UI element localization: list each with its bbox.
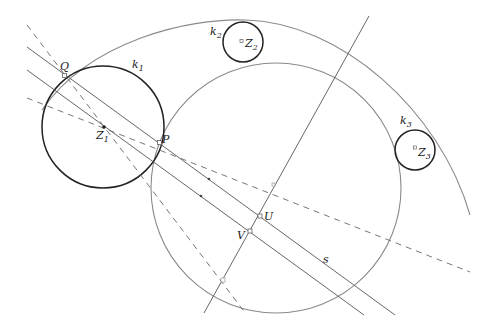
diagram-svg: Q P U V s k1 k2 k3 Z1 Z2 Z3 bbox=[0, 0, 492, 331]
label-P: P bbox=[161, 133, 170, 146]
tick-mark bbox=[208, 178, 211, 181]
label-Q: Q bbox=[60, 60, 69, 73]
point-U-marker bbox=[258, 214, 262, 218]
point-Q-marker bbox=[63, 74, 67, 78]
point-V-marker bbox=[248, 229, 252, 233]
label-U: U bbox=[264, 210, 274, 223]
label-V: V bbox=[237, 229, 246, 242]
label-k2: k2 bbox=[210, 25, 222, 40]
label-s: s bbox=[323, 253, 329, 266]
parallel-line-z1 bbox=[27, 70, 364, 315]
center-Z3-marker bbox=[414, 146, 417, 149]
center-Z2-marker bbox=[240, 40, 243, 43]
geometry-diagram: Q P U V s k1 k2 k3 Z1 Z2 Z3 bbox=[0, 0, 492, 331]
label-k3: k3 bbox=[400, 114, 412, 129]
line-uv bbox=[204, 16, 369, 313]
label-Z3: Z3 bbox=[417, 146, 431, 161]
tick-mark bbox=[200, 195, 203, 198]
line-s bbox=[27, 47, 395, 315]
label-k1: k1 bbox=[132, 58, 144, 73]
intersection-marker bbox=[272, 183, 275, 186]
intersection-marker bbox=[221, 278, 225, 282]
point-P-marker bbox=[158, 141, 162, 145]
label-Z1: Z1 bbox=[95, 129, 109, 144]
label-Z2: Z2 bbox=[244, 37, 258, 52]
circle-k3 bbox=[395, 130, 435, 170]
